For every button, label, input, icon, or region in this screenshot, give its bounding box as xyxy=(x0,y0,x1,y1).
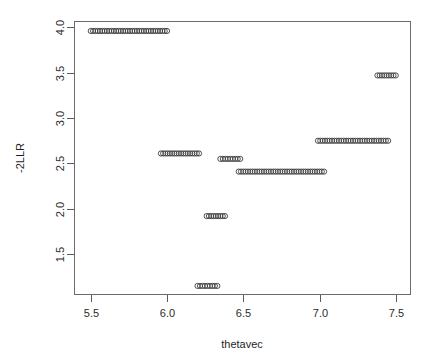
y-axis-title: -2LLR xyxy=(14,143,26,173)
x-tick-label: 6.0 xyxy=(160,307,175,319)
y-tick-label: 3.0 xyxy=(54,111,66,126)
x-tick-label: 7.5 xyxy=(389,307,404,319)
y-tick-label: 1.5 xyxy=(54,247,66,262)
y-tick-label: 3.5 xyxy=(54,66,66,81)
y-tick-label: 2.5 xyxy=(54,156,66,171)
y-axis-ticks: 1.52.02.53.03.54.0 xyxy=(54,20,74,262)
y-tick-label: 2.0 xyxy=(54,202,66,217)
x-tick-label: 7.0 xyxy=(313,307,328,319)
x-axis-title: thetavec xyxy=(221,338,263,350)
scatter-plot-figure: 5.56.06.57.07.5 1.52.02.53.03.54.0 theta… xyxy=(0,0,431,364)
data-points-layer xyxy=(88,28,398,288)
x-axis-ticks: 5.56.06.57.07.5 xyxy=(84,295,404,319)
x-tick-label: 5.5 xyxy=(84,307,99,319)
plot-canvas: 5.56.06.57.07.5 1.52.02.53.03.54.0 theta… xyxy=(0,0,431,364)
y-tick-label: 4.0 xyxy=(54,20,66,35)
x-tick-label: 6.5 xyxy=(236,307,251,319)
